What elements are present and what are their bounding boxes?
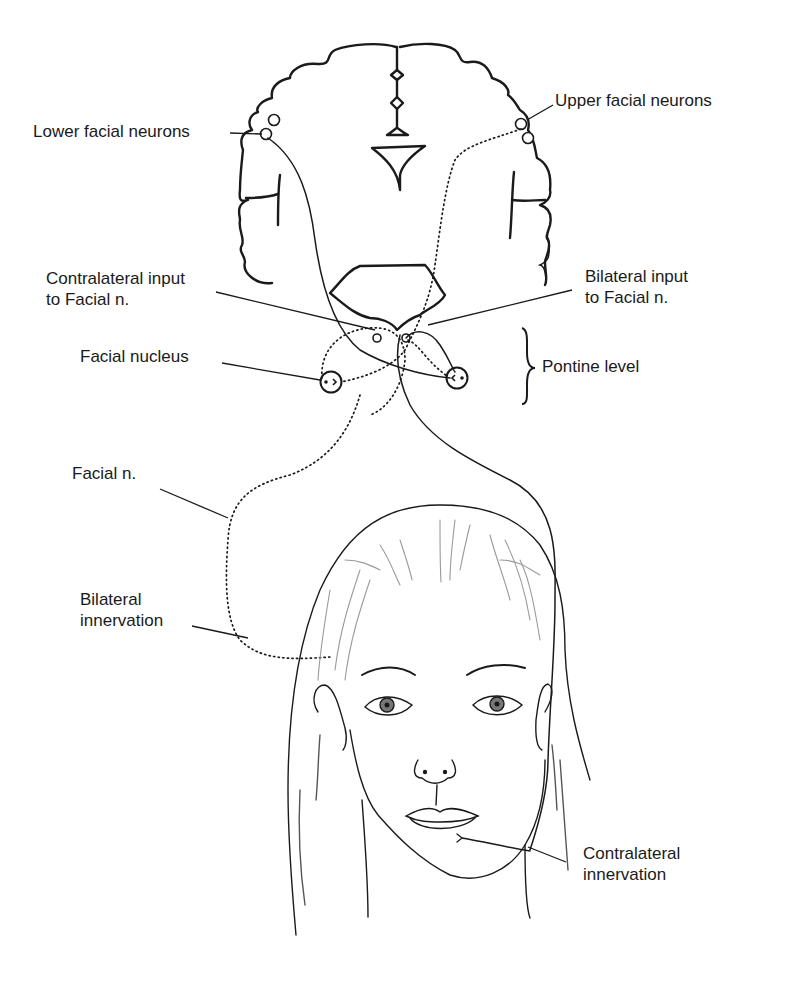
leader-facial-nerve xyxy=(160,489,228,518)
nose xyxy=(415,760,456,783)
diagram-artwork xyxy=(0,0,785,987)
label-bilateral-input-line1: Bilateral input xyxy=(585,266,688,287)
leader-facial-nucleus xyxy=(222,363,320,380)
label-lower-facial-neurons: Lower facial neurons xyxy=(33,121,190,142)
upper-neuron-a xyxy=(516,119,527,130)
label-contralateral-innervation: Contralateral innervation xyxy=(583,843,680,885)
solid-pathway xyxy=(268,138,555,851)
label-bilateral-innervation-line2: innervation xyxy=(80,610,163,631)
cortical-neurons xyxy=(261,115,534,343)
label-contralateral-input-line1: Contralateral input xyxy=(46,268,185,289)
label-contralateral-input-line2: to Facial n. xyxy=(46,289,185,310)
facial-features xyxy=(362,665,525,829)
label-contralateral-innervation-line2: innervation xyxy=(583,864,680,885)
brain-section xyxy=(239,44,551,330)
leader-lower-facial-neurons xyxy=(230,133,262,134)
face-illustration xyxy=(288,505,590,935)
dotted-pathway xyxy=(226,129,521,658)
leader-upper-facial-neurons xyxy=(527,105,553,120)
label-bilateral-input-line2: to Facial n. xyxy=(585,287,688,308)
label-pontine-level: Pontine level xyxy=(542,356,639,377)
label-bilateral-innervation-line1: Bilateral xyxy=(80,589,163,610)
label-upper-facial-neurons: Upper facial neurons xyxy=(555,90,712,111)
facial-nucleus-left xyxy=(321,372,342,393)
lower-neuron-b xyxy=(261,129,272,140)
label-bilateral-input: Bilateral input to Facial n. xyxy=(585,266,688,308)
label-bilateral-innervation: Bilateral innervation xyxy=(80,589,163,631)
leader-bilateral-innervation xyxy=(192,626,248,638)
leader-bilateral-input xyxy=(428,290,572,325)
facial-nuclei xyxy=(321,368,468,393)
hair-strokes xyxy=(318,520,540,680)
leader-contralateral-innervation xyxy=(528,847,566,862)
pons-neuron-left xyxy=(373,334,381,342)
left-eyebrow xyxy=(362,668,415,676)
label-contralateral-input: Contralateral input to Facial n. xyxy=(46,268,185,310)
upper-neuron-b xyxy=(523,133,534,144)
facial-nerve-diagram: Lower facial neurons Upper facial neuron… xyxy=(0,0,785,987)
pontine-level-brace xyxy=(522,328,535,404)
lower-neuron-a xyxy=(269,115,280,126)
right-eyebrow xyxy=(467,665,525,675)
lips xyxy=(406,809,478,822)
label-facial-nucleus: Facial nucleus xyxy=(80,346,189,367)
label-facial-nerve: Facial n. xyxy=(72,463,136,484)
label-contralateral-innervation-line1: Contralateral xyxy=(583,843,680,864)
